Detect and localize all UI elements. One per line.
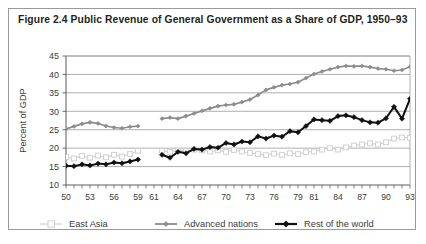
data-point-marker [256,152,261,157]
data-point-marker [120,154,125,159]
y-axis-tick-label-35: 35 [49,88,59,98]
x-axis-tick-label-84: 84 [333,192,343,202]
data-point-marker [72,124,76,128]
data-point-marker [72,156,77,161]
legend-item-east-asia[interactable]: East Asia [40,219,109,229]
data-point-marker [64,127,68,131]
data-point-marker [224,103,228,107]
y-axis-tick-label-30: 30 [49,107,59,117]
x-axis-tick-label-76: 76 [269,192,279,202]
x-axis-tick-label-64: 64 [173,192,183,202]
data-point-marker [240,100,244,104]
data-point-marker [408,135,413,140]
y-axis-tick-label-20: 20 [49,143,59,153]
data-point-marker [336,147,341,152]
y-axis-title: Percent of GDP [18,88,28,152]
data-point-marker [407,96,412,101]
data-point-marker [392,69,396,73]
data-point-marker [344,145,349,150]
legend-swatch-marker [283,221,289,227]
data-point-marker [104,155,109,160]
x-axis-tick-label-87: 87 [357,192,367,202]
x-axis-tick-label-79: 79 [293,192,303,202]
y-axis-tick-label-25: 25 [49,125,59,135]
data-point-marker [111,160,116,165]
data-point-marker [312,149,317,154]
y-axis-tick-label-10: 10 [49,180,59,190]
data-point-marker [112,125,116,129]
data-point-marker [168,115,172,119]
data-point-marker [304,150,309,155]
data-point-marker [232,148,237,153]
data-point-marker [80,153,85,158]
data-point-marker [136,148,141,153]
series-line-segment [162,66,410,119]
data-point-marker [71,164,76,169]
legend-label: Rest of the world [304,219,374,229]
data-point-marker [128,152,133,157]
x-axis-tick-label-73: 73 [245,192,255,202]
data-point-marker [128,125,132,129]
data-point-marker [368,141,373,146]
data-point-marker [88,120,92,124]
data-point-marker [119,161,124,166]
data-point-marker [63,163,68,168]
series-line-segment [162,99,410,158]
legend-label: East Asia [69,219,109,229]
data-point-marker [343,113,348,118]
data-point-marker [328,67,332,71]
data-point-marker [160,117,164,121]
data-point-marker [360,64,364,68]
y-axis-tick-label-15: 15 [49,162,59,172]
x-axis-tick-label-93: 93 [405,192,415,202]
data-point-marker [232,102,236,106]
x-axis-tick-label-70: 70 [221,192,231,202]
x-axis-tick-label-59: 59 [133,192,143,202]
data-point-marker [320,69,324,73]
data-point-marker [248,151,253,156]
data-point-marker [136,124,140,128]
data-point-marker [224,149,229,154]
data-point-marker [288,82,292,86]
data-point-marker [112,152,117,157]
data-point-marker [239,139,244,144]
data-point-marker [271,133,276,138]
data-point-marker [384,67,388,71]
legend-item-advanced-nations[interactable]: Advanced nations [155,219,258,229]
data-point-marker [400,135,405,140]
data-point-marker [104,124,108,128]
y-axis-tick-label-45: 45 [49,51,59,61]
data-point-marker [200,109,204,113]
data-point-marker [280,83,284,87]
x-axis-tick-label-67: 67 [197,192,207,202]
data-point-marker [336,65,340,69]
chart-canvas: 1015202530354045505356596164677073767981… [0,0,426,244]
data-point-marker [319,118,324,123]
x-axis-tick-label-90: 90 [381,192,391,202]
data-point-marker [216,104,220,108]
data-point-marker [272,85,276,89]
data-point-marker [328,146,333,151]
x-axis-tick-label-56: 56 [109,192,119,202]
y-axis-tick-label-40: 40 [49,70,59,80]
data-point-marker [320,147,325,152]
data-point-marker [367,120,372,125]
data-point-marker [376,142,381,147]
data-point-marker [352,64,356,68]
data-point-marker [135,157,140,162]
data-point-marker [360,142,365,147]
data-point-marker [240,149,245,154]
data-point-marker [231,142,236,147]
legend-label: Advanced nations [184,219,258,229]
legend-swatch-marker [48,221,54,227]
data-point-marker [88,155,93,160]
data-point-marker [168,149,173,154]
data-point-marker [64,155,69,160]
data-point-marker [351,115,356,120]
data-point-marker [368,65,372,69]
data-point-marker [280,152,285,157]
x-axis-tick-label-61: 61 [149,192,159,202]
legend-swatch-marker [163,221,168,226]
legend-item-rest-of-the-world[interactable]: Rest of the world [275,219,374,229]
data-point-marker [176,117,180,121]
